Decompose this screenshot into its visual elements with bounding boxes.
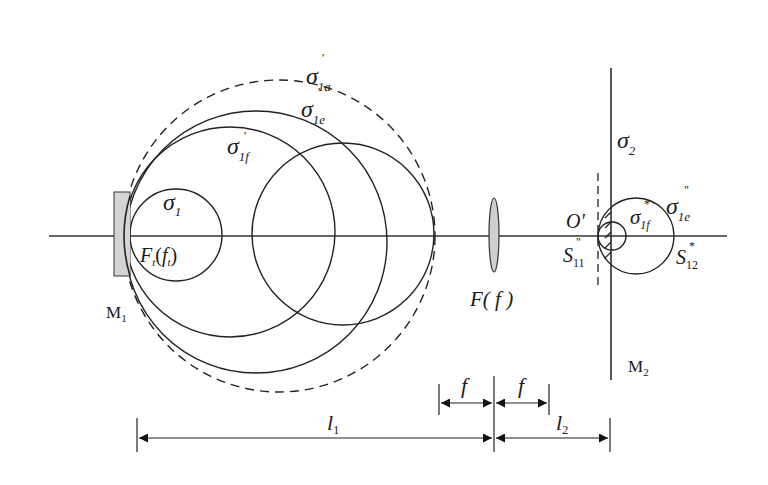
label-sigma-1a-prime: ': [322, 51, 324, 65]
label-sigma-1f-star-mark: *: [644, 197, 650, 211]
label-dim-l2: l2: [556, 410, 568, 437]
label-lens-f: F( f ): [469, 287, 513, 311]
label-sigma-1e-double-prime-mark: ": [684, 183, 689, 197]
dimension-l1: [137, 418, 492, 452]
label-dim-l1: l1: [327, 410, 339, 437]
label-sigma-2: σ2: [617, 127, 636, 158]
mirror-m2-hatch: [605, 212, 611, 258]
label-sigma-1: σ1: [163, 189, 181, 219]
label-dim-f-right: f: [518, 373, 527, 398]
label-sigma-1e: σ1e: [301, 96, 325, 127]
label-s11-mark: ": [576, 235, 581, 249]
label-mirror-m1: M1: [106, 303, 127, 324]
wavefront-sigma-1: [130, 189, 222, 281]
label-dim-f-left: f: [461, 373, 470, 398]
label-origin-o-prime: O': [566, 210, 585, 232]
label-focal-t: Ft(ft): [139, 244, 177, 268]
dimension-l2: [496, 418, 610, 452]
label-sigma-1e-prime: ': [318, 85, 320, 99]
label-s12-mark: *: [689, 239, 695, 253]
label-s11: S11: [563, 244, 585, 270]
wavefront-inner-right: [252, 143, 434, 325]
optical-resonator-diagram: σ1a ' σ1e ' σ1f ' σ1 Ft(ft) M1 F( f ) σ2…: [0, 0, 768, 485]
label-mirror-m2: M2: [628, 357, 649, 378]
lens: [489, 198, 499, 272]
label-sigma-1f: σ1f: [227, 133, 251, 164]
label-sigma-1f-prime: ': [244, 129, 246, 143]
